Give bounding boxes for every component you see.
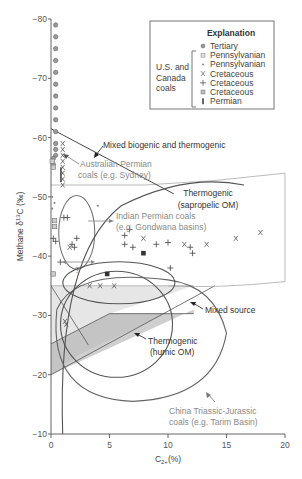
x-tick-label: 20 — [280, 440, 290, 450]
y-tick-label: −50 — [33, 192, 48, 202]
cretaceous-plus-marker — [165, 240, 171, 246]
pennsylvanian-square-marker — [51, 272, 55, 276]
y-tick-label: −20 — [33, 370, 48, 380]
y-tick-label: −30 — [33, 310, 48, 320]
label-sapropelic-2: (sapropelic OM) — [178, 200, 239, 210]
cretaceous-x-marker — [61, 147, 65, 152]
legend: ExplanationU.S. andCanadacoalsTertiaryPe… — [150, 21, 274, 109]
label-question-mark: ? — [75, 265, 80, 275]
cretaceous-plus-marker — [122, 241, 128, 247]
cretaceous-square-marker — [105, 272, 110, 277]
cretaceous-x-marker — [182, 242, 186, 247]
legend-group-label: U.S. and — [156, 62, 189, 72]
label-indian-1: Indian Permian coals — [116, 211, 195, 221]
x-tick-label: 5 — [107, 440, 112, 450]
label-humic-1: Thermogenic — [148, 336, 198, 346]
pennsylvanian-square-marker — [52, 218, 56, 222]
pennsylvanian-square-marker — [50, 159, 54, 163]
cretaceous-plus-marker — [74, 235, 80, 241]
pennsylvanian-square-marker — [51, 165, 55, 169]
cretaceous-square-marker — [141, 251, 146, 256]
cretaceous-x-marker — [141, 236, 145, 241]
y-tick-label: −60 — [33, 133, 48, 143]
label-sapropelic-1: Thermogenic — [183, 188, 233, 198]
cretaceous-x-marker — [68, 245, 72, 250]
legend-marker-square-hatched — [201, 90, 205, 94]
cretaceous-plus-marker — [64, 215, 70, 221]
label-mixed-source: Mixed source — [205, 305, 256, 315]
label-mixed-biogenic: Mixed biogenic and thermogenic — [103, 140, 226, 150]
tertiary-marker — [53, 70, 57, 74]
tertiary-marker — [53, 129, 57, 133]
tertiary-marker — [53, 94, 57, 98]
legend-marker-tertiary — [201, 44, 205, 48]
cretaceous-x-marker — [61, 141, 65, 146]
x-tick-label: 15 — [222, 440, 232, 450]
x-axis-title: C2+(%) — [155, 454, 181, 465]
legend-group-label: coals — [156, 83, 176, 93]
tertiary-marker — [53, 35, 57, 39]
arrowhead-indian — [109, 219, 114, 223]
legend-marker-dot — [202, 63, 204, 65]
cretaceous-plus-marker — [187, 244, 193, 250]
cretaceous-plus-marker — [153, 241, 159, 247]
pennsylvanian-dot-marker — [97, 205, 99, 207]
cretaceous-x-marker — [205, 242, 209, 247]
tertiary-marker — [53, 118, 57, 122]
label-australian-2: coals (e.g. Sydney) — [78, 170, 151, 180]
cretaceous-plus-marker — [130, 244, 136, 250]
x-tick-label: 10 — [163, 440, 173, 450]
y-axis-title-main: Methane δ — [15, 221, 25, 261]
pennsylvanian-square-marker — [52, 224, 56, 228]
chart-canvas: −80−70−60−50−40−30−20−1005101520C2+(%)Me… — [0, 0, 302, 479]
label-china-1: China Triassic-Jurassic — [169, 406, 257, 416]
pennsylvanian-dot-marker — [51, 208, 53, 210]
legend-title: Explanation — [207, 28, 255, 38]
y-tick-label: −80 — [33, 14, 48, 24]
tertiary-marker — [53, 23, 57, 27]
cretaceous-plus-marker — [122, 232, 128, 238]
cretaceous-plus-marker — [190, 250, 196, 256]
pennsylvanian-dot-marker — [53, 202, 55, 204]
cretaceous-x-marker — [258, 230, 262, 235]
label-humic-2: (humic OM) — [150, 347, 195, 357]
cretaceous-x-marker — [61, 159, 65, 164]
tertiary-marker — [53, 82, 57, 86]
cretaceous-plus-marker — [167, 265, 173, 271]
tertiary-marker — [53, 106, 57, 110]
legend-marker-square-light — [201, 53, 205, 57]
cretaceous-x-marker — [234, 236, 238, 241]
legend-group-label: Canada — [156, 73, 186, 83]
tertiary-marker — [53, 141, 57, 145]
tertiary-marker — [53, 147, 57, 151]
range-arrowhead-left — [62, 260, 66, 264]
y-tick-label: −10 — [33, 429, 48, 439]
pennsylvanian-dot-marker — [51, 196, 53, 198]
label-australian-1: Australian Permian — [80, 159, 152, 169]
label-indian-2: (e.g. Gondwana basins) — [116, 222, 206, 232]
x-tick-label: 0 — [49, 440, 54, 450]
label-china-2: coals (e.g. Tarim Basin) — [169, 417, 258, 427]
y-axis-title-tail: C (‰) — [15, 192, 25, 215]
indian-permian-ellipse — [59, 195, 95, 269]
y-tick-label: −40 — [33, 251, 48, 261]
legend-entry-label: Permian — [210, 96, 242, 106]
y-axis-title: Methane δ13C (‰) — [15, 192, 25, 262]
tertiary-marker — [53, 46, 57, 50]
x-axis-title-tail: (%) — [168, 454, 181, 464]
tertiary-marker — [53, 58, 57, 62]
y-tick-label: −70 — [33, 73, 48, 83]
